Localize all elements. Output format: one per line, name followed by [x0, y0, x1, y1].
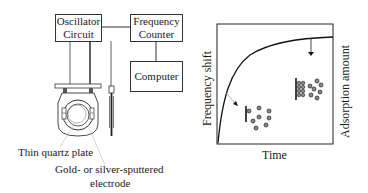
- quartz-crystal-holder-icon: [55, 84, 101, 136]
- quartz-plate-leader: [60, 123, 75, 147]
- electrode-label-line2: electrode: [90, 177, 130, 189]
- y-axis-label-left: Frequency shift: [200, 51, 215, 126]
- y-axis-label-right: Adsorption amount: [338, 45, 353, 138]
- holder-side-view-icon: [109, 86, 114, 136]
- early-stage-arrow: [226, 93, 235, 103]
- x-axis-label: Time: [262, 149, 287, 161]
- early-stage-inset-icon: [246, 106, 271, 130]
- late-arrowhead: [308, 52, 314, 56]
- electrode-label-line1: Gold- or silver-sputtered: [55, 163, 164, 175]
- quartz-plate-label: Thin quartz plate: [18, 146, 93, 158]
- late-stage-inset-icon: [296, 78, 323, 100]
- graph-frame: [217, 24, 333, 144]
